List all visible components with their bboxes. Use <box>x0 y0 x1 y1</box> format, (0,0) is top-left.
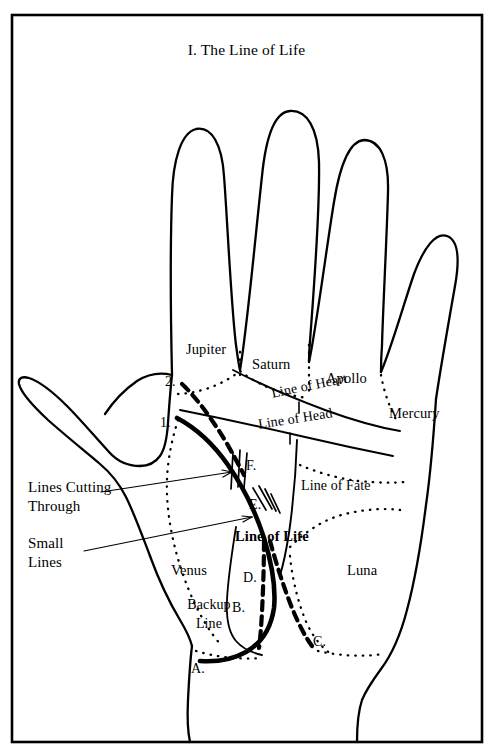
backup-line-label-1: Backup <box>178 597 240 613</box>
marker-label-1: 1. <box>160 415 171 431</box>
line-label-life: Line of Life <box>235 528 309 544</box>
annotation-small-lines-1: Small <box>28 534 64 552</box>
annotation-lines-cutting-through-2: Through <box>28 497 80 515</box>
line-label-fate: Line of Fate <box>301 478 371 494</box>
marker-label-f: F. <box>246 458 256 474</box>
figure-title: I. The Line of Life <box>0 41 493 58</box>
marker-label-b: B. <box>232 600 245 616</box>
marker-label-c: C. <box>313 634 326 650</box>
mount-label-saturn: Saturn <box>252 356 290 372</box>
palmistry-figure: I. The Line of Life Jupiter Saturn Apoll… <box>0 0 493 755</box>
backup-line-label-2: Line <box>178 616 240 632</box>
annotation-lines-cutting-through-1: Lines Cutting <box>28 478 111 496</box>
mount-label-jupiter: Jupiter <box>186 341 226 357</box>
figure-border <box>12 15 482 742</box>
marker-label-d: D. <box>243 570 257 586</box>
mount-label-venus: Venus <box>171 562 207 578</box>
marker-label-2: 2. <box>165 374 176 390</box>
mount-label-luna: Luna <box>347 562 377 578</box>
mount-label-mercury: Mercury <box>389 405 440 421</box>
annotation-small-lines-2: Lines <box>28 553 62 571</box>
marker-label-e: E. <box>249 497 261 513</box>
palm-diagram-svg <box>0 0 493 755</box>
marker-label-a: A. <box>191 661 205 677</box>
